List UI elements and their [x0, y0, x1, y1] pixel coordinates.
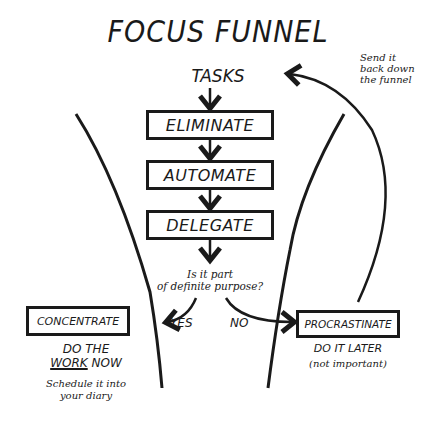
procrastinate-note: (not important) — [296, 358, 400, 370]
step-eliminate: ELIMINATE — [146, 110, 274, 140]
concentrate-action: DO THE WORK NOW — [26, 342, 146, 370]
loop-back-arrow — [290, 74, 386, 302]
work-emphasis: WORK — [50, 356, 88, 370]
outcome-procrastinate: PROCRASTINATE — [296, 310, 400, 338]
concentrate-action-line1: DO THE — [26, 342, 146, 356]
loop-note: Send it back down the funnel — [360, 52, 415, 85]
decision-question: Is it part of definite purpose? — [150, 268, 270, 292]
now-text: NOW — [88, 356, 122, 370]
decision-question-line1: Is it part — [150, 268, 270, 280]
diagram-title: FOCUS FUNNEL — [0, 14, 436, 49]
loop-note-line2: back down — [360, 63, 415, 74]
yes-label: YES — [170, 316, 193, 330]
tasks-label: TASKS — [168, 66, 268, 86]
concentrate-note-line1: Schedule it into — [26, 378, 146, 390]
outcome-concentrate: CONCENTRATE — [26, 306, 130, 336]
no-label: NO — [230, 316, 248, 330]
decision-question-line2: of definite purpose? — [150, 280, 270, 292]
procrastinate-action: DO IT LATER — [296, 342, 400, 355]
concentrate-action-line2: WORK NOW — [26, 356, 146, 370]
concentrate-note: Schedule it into your diary — [26, 378, 146, 402]
loop-note-line1: Send it — [360, 52, 415, 63]
concentrate-note-line2: your diary — [26, 390, 146, 402]
loop-note-line3: the funnel — [360, 74, 415, 85]
step-delegate: DELEGATE — [146, 210, 274, 240]
step-automate: AUTOMATE — [146, 160, 274, 190]
